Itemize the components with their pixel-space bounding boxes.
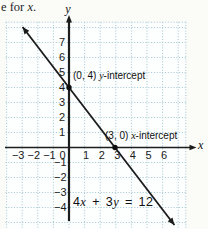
y-tick-label: −2: [54, 171, 67, 183]
y-intercept-annotation: (0, 4) y-intercept: [73, 70, 145, 81]
y-tick-label: 1: [59, 126, 65, 138]
x-tick-label: 5: [145, 149, 151, 161]
x-tick-label: −3: [12, 149, 25, 161]
y-tick-label: 4: [59, 81, 65, 93]
y-intercept-suffix: -intercept: [104, 70, 146, 81]
x-tick-label: 4: [130, 149, 136, 161]
x-tick-label: 6: [161, 149, 167, 161]
equation-part3: = 12: [119, 195, 153, 209]
y-intercept-point-text: (0, 4): [73, 70, 99, 81]
x-intercept-annotation: (3, 0) x-intercept: [105, 130, 177, 141]
y-tick-label: 3: [59, 96, 65, 108]
x-axis-label: x: [197, 138, 204, 152]
x-tick-label: 1: [83, 149, 89, 161]
y-tick-label: 7: [59, 36, 65, 48]
textbook-graph-figure: −3−2−101234567654321−1−2−3−4 e for x. y …: [0, 0, 208, 229]
cropped-sentence-prefix: e for: [1, 0, 27, 14]
y-tick-label: 6: [59, 51, 65, 63]
y-tick-label: −4: [54, 201, 67, 213]
cropped-sentence-suffix: .: [33, 0, 36, 14]
x-intercept-suffix: -intercept: [136, 130, 178, 141]
equation-label: 4x + 3y = 12: [73, 195, 153, 209]
y-axis-label: y: [64, 2, 71, 16]
y-tick-label: −1: [54, 156, 67, 168]
equation-part2: + 3: [86, 195, 113, 209]
graph-svg: −3−2−101234567654321−1−2−3−4 e for x. y …: [0, 0, 208, 229]
equation-part1: 4: [73, 195, 80, 209]
x-tick-label: 2: [99, 149, 105, 161]
x-intercept-point-text: (3, 0): [105, 130, 131, 141]
x-intercept-point: [112, 145, 117, 150]
y-tick-label: 2: [59, 111, 65, 123]
y-axis-arrowhead-icon: [66, 15, 72, 23]
cropped-sentence-fragment: e for x.: [1, 0, 36, 14]
y-intercept-point: [66, 85, 71, 90]
equation-variable-x: x: [79, 195, 86, 209]
equation-variable-y: y: [111, 195, 119, 209]
x-tick-label: −2: [28, 149, 41, 161]
x-axis-arrowhead-icon: [190, 145, 197, 151]
y-tick-label: −3: [54, 186, 67, 198]
